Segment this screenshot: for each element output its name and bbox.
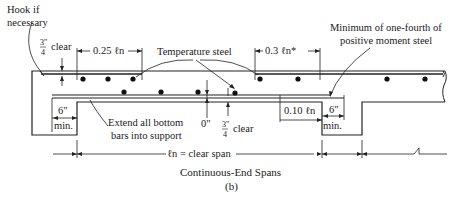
top-clear-word: clear — [51, 41, 72, 52]
min-positive-steel-line2: positive moment steel — [340, 35, 432, 46]
extend-bottom-line2: bars into support — [111, 130, 182, 141]
reinforcement-detail-diagram: Hook if necessary 3" 4 clear 0.25 ℓn Tem… — [0, 0, 463, 203]
hook-label-line1: Hook if — [7, 4, 40, 15]
extend-bottom-line1: Extend all bottom — [108, 117, 183, 128]
diagram-subtitle: (b) — [225, 180, 238, 193]
left-min-label: min. — [54, 120, 73, 131]
right-extent-bottom-label: 0.10 ℓn — [284, 105, 316, 116]
top-right-rebar-dots — [257, 76, 427, 81]
bottom-clear-word: clear — [233, 123, 254, 134]
extend-bottom-leader — [90, 100, 108, 126]
temperature-steel-leaders — [136, 60, 258, 89]
right-extent-label: 0.3 ℓn* — [265, 45, 296, 56]
zero-inch-label: 0" — [201, 118, 211, 129]
temperature-steel-label: Temperature steel — [157, 46, 232, 57]
left-extent-label: 0.25 ℓn — [93, 45, 125, 56]
clear-span-label: ℓn = clear span — [167, 148, 231, 159]
hook-label-line2: necessary — [7, 17, 49, 28]
right-6in-label: 6" — [329, 104, 339, 115]
hook-leader — [29, 22, 42, 73]
bottom-clear-den: 4 — [223, 130, 227, 139]
bottom-clear-num: 3" — [222, 120, 229, 129]
bottom-bars — [52, 95, 344, 98]
right-min-label: min. — [323, 120, 342, 131]
top-left-rebar-dots — [80, 76, 135, 81]
top-clear-den: 4 — [41, 48, 45, 57]
top-clear-num: 3" — [40, 38, 47, 47]
top-bars — [40, 71, 445, 77]
left-6in-label: 6" — [58, 105, 68, 116]
min-positive-steel-line1: Minimum of one-fourth of — [330, 22, 442, 33]
clear-span-dimension — [53, 140, 447, 158]
zero-inch-marker — [205, 80, 209, 118]
min-positive-steel-leader — [330, 48, 370, 96]
top-clear-marker — [60, 58, 64, 86]
diagram-title: Continuous-End Spans — [180, 166, 281, 178]
